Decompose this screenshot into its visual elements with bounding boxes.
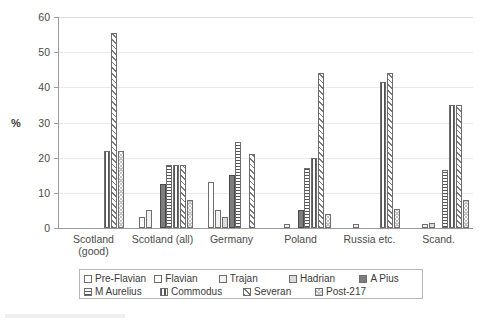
bar xyxy=(111,33,117,228)
bar xyxy=(325,214,331,228)
bar xyxy=(208,182,214,228)
bar xyxy=(249,154,255,228)
bar xyxy=(222,217,228,228)
bar-group xyxy=(266,17,335,228)
y-axis: 0102030405060 xyxy=(0,0,58,232)
bar-group xyxy=(59,17,128,228)
bar xyxy=(284,224,290,228)
x-axis-label: Scotland (all) xyxy=(132,233,193,245)
legend-item[interactable]: A Pius xyxy=(359,274,418,284)
caption-line xyxy=(5,314,125,318)
legend-item[interactable]: Commodus xyxy=(160,287,243,297)
x-axis-labels: Scotland (good)Scotland (all)GermanyPola… xyxy=(59,233,473,263)
legend-item[interactable]: Post-217 xyxy=(315,287,387,297)
bar xyxy=(449,105,455,228)
bar xyxy=(442,170,448,228)
bar xyxy=(229,175,235,228)
bar xyxy=(311,158,317,228)
bar-group xyxy=(128,17,197,228)
bar xyxy=(304,168,310,228)
bar xyxy=(146,210,152,228)
y-tick-label: 50 xyxy=(38,46,50,58)
bar-group xyxy=(197,17,266,228)
legend-swatch-icon xyxy=(359,275,367,283)
y-axis-title: % xyxy=(11,117,21,129)
bar xyxy=(387,73,393,228)
x-axis-label: Russia etc. xyxy=(344,233,396,245)
bar xyxy=(104,151,110,228)
x-axis-label: Germany xyxy=(210,233,253,245)
bar xyxy=(353,224,359,228)
legend-label: A Pius xyxy=(370,274,398,284)
legend-item[interactable]: M Aurelius xyxy=(84,287,160,297)
bar-group xyxy=(404,17,473,228)
bar xyxy=(215,210,221,228)
x-axis-label: Scand. xyxy=(422,233,455,245)
y-tick-label: 30 xyxy=(38,117,50,129)
legend-label: Post-217 xyxy=(326,287,366,297)
bar xyxy=(394,209,400,228)
legend-row-1: Pre-FlavianFlavianTrajanHadrianA Pius xyxy=(84,272,418,285)
legend-item[interactable]: Pre-Flavian xyxy=(84,274,154,284)
x-axis-label: Scotland (good) xyxy=(73,233,114,257)
bar xyxy=(456,105,462,228)
bar xyxy=(380,82,386,228)
chart-legend: Pre-FlavianFlavianTrajanHadrianA Pius M … xyxy=(79,269,423,299)
legend-item[interactable]: Hadrian xyxy=(289,274,359,284)
legend-label: Severan xyxy=(254,287,291,297)
legend-swatch-icon xyxy=(84,275,92,283)
legend-swatch-icon xyxy=(160,288,168,296)
bar xyxy=(235,142,241,228)
page-caption-strip xyxy=(0,306,489,320)
bar xyxy=(173,165,179,228)
legend-label: Flavian xyxy=(165,274,197,284)
bar xyxy=(139,217,145,228)
legend-swatch-icon xyxy=(84,288,92,296)
bar xyxy=(118,151,124,228)
legend-item[interactable]: Severan xyxy=(243,287,315,297)
legend-swatch-icon xyxy=(154,275,162,283)
legend-label: Commodus xyxy=(171,287,222,297)
legend-row-2: M AureliusCommodusSeveranPost-217 xyxy=(84,285,418,298)
bar-groups xyxy=(59,17,473,228)
legend-label: Trajan xyxy=(230,274,258,284)
legend-item[interactable]: Trajan xyxy=(219,274,289,284)
legend-swatch-icon xyxy=(315,288,323,296)
x-axis-label: Poland xyxy=(284,233,317,245)
legend-swatch-icon xyxy=(243,288,251,296)
y-tick-label: 20 xyxy=(38,152,50,164)
y-tick-label: 0 xyxy=(44,222,50,234)
y-tick-label: 60 xyxy=(38,11,50,23)
bar xyxy=(160,184,166,228)
bar xyxy=(187,200,193,228)
legend-label: M Aurelius xyxy=(95,287,142,297)
legend-item[interactable]: Flavian xyxy=(154,274,218,284)
legend-swatch-icon xyxy=(219,275,227,283)
bar xyxy=(429,223,435,228)
bar xyxy=(180,165,186,228)
bar xyxy=(166,165,172,228)
legend-label: Pre-Flavian xyxy=(95,274,146,284)
legend-label: Hadrian xyxy=(300,274,335,284)
bar xyxy=(298,210,304,228)
legend-swatch-icon xyxy=(289,275,297,283)
y-tick-label: 10 xyxy=(38,187,50,199)
chart-figure: 0102030405060 % Scotland (good)Scotland … xyxy=(0,0,489,320)
y-tick-label: 40 xyxy=(38,81,50,93)
bar xyxy=(422,224,428,228)
bar-group xyxy=(335,17,404,228)
bar xyxy=(463,200,469,228)
bar xyxy=(318,73,324,228)
